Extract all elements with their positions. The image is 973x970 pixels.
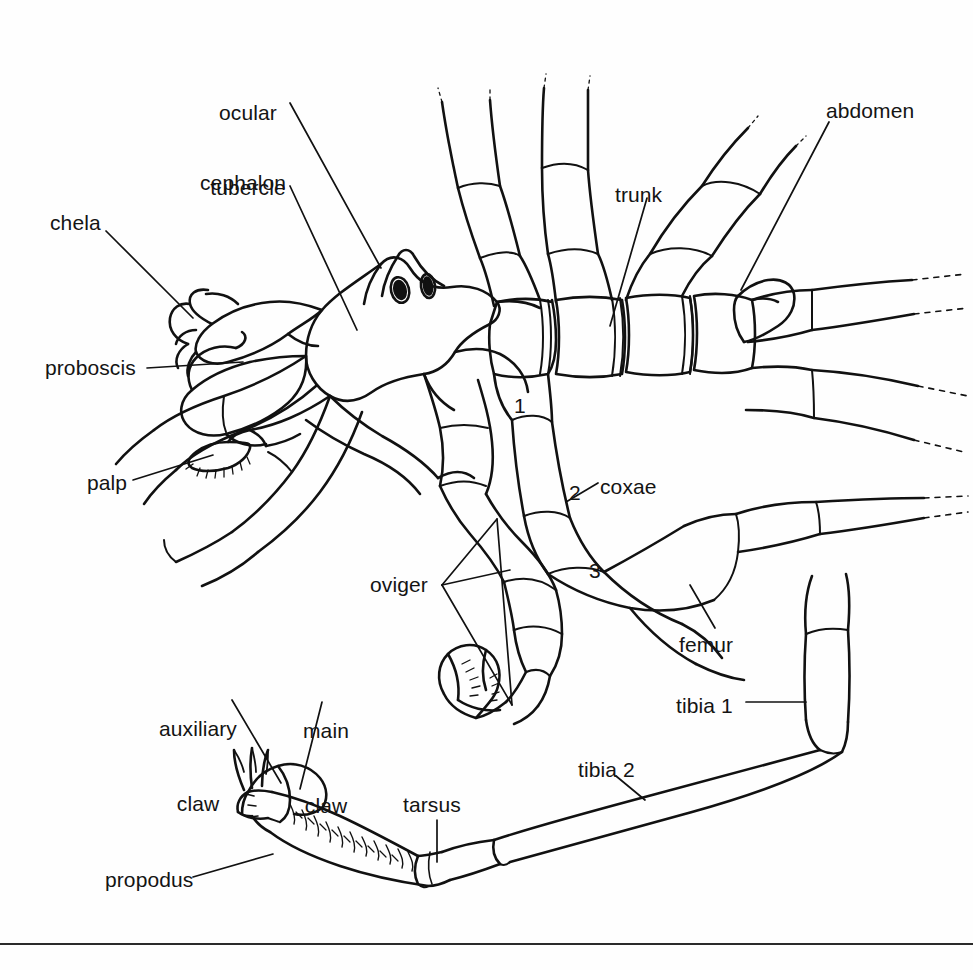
label-palp: palp <box>87 470 127 495</box>
anatomy-figure: ocular tubercle cephalon chela proboscis… <box>0 0 973 970</box>
label-chela: chela <box>50 210 101 235</box>
label-auxiliary-claw: auxiliary claw <box>150 666 246 866</box>
trunk-segments <box>489 294 755 377</box>
label-tarsus: tarsus <box>403 792 461 817</box>
leg-left-3 <box>164 396 362 586</box>
tarsus-shape <box>415 840 500 887</box>
abdomen-shape <box>734 280 794 342</box>
label-femur: femur <box>679 632 733 657</box>
label-trunk: trunk <box>615 182 662 207</box>
label-tibia-2: tibia 2 <box>578 757 635 782</box>
label-auxiliary-claw-line2: claw <box>150 791 246 816</box>
leg-left-1 <box>306 396 474 494</box>
leg-trunk-a <box>438 86 540 306</box>
leader-palp <box>133 455 213 480</box>
label-abdomen: abdomen <box>826 98 914 123</box>
cephalon-body <box>306 257 540 410</box>
palp-shape <box>186 396 330 478</box>
leg-trunk-c <box>626 116 806 300</box>
label-ocular-tubercle: ocular tubercle <box>205 50 291 250</box>
leg-trunk-b <box>542 74 612 302</box>
label-main-claw-line1: main <box>295 718 357 743</box>
label-ocular-tubercle-line1: ocular <box>205 100 291 125</box>
leg-right-d <box>748 274 968 342</box>
label-tibia-1: tibia 1 <box>676 693 733 718</box>
sea-spider-drawing <box>0 0 973 970</box>
bottom-rule <box>0 943 973 945</box>
label-coxa-2: 2 <box>569 480 581 505</box>
oviger-shape <box>439 627 562 724</box>
label-main-claw-line2: claw <box>295 793 357 818</box>
label-coxae: coxae <box>600 474 657 499</box>
leg-right-lower <box>604 572 744 680</box>
leader-ocular-tubercle <box>290 103 381 268</box>
leg-right-e <box>746 367 968 452</box>
label-propodus: propodus <box>105 867 193 892</box>
label-coxa-1: 1 <box>514 393 526 418</box>
label-oviger: oviger <box>370 572 428 597</box>
leg-right-coxae-femur <box>494 374 968 610</box>
leg-left-4 <box>424 374 562 634</box>
label-proboscis: proboscis <box>45 355 136 380</box>
tibia-2-shape <box>493 750 842 865</box>
leader-abdomen <box>741 122 829 290</box>
label-auxiliary-claw-line1: auxiliary <box>150 716 246 741</box>
label-cephalon: cephalon <box>200 170 286 195</box>
tibia-1-shape <box>805 574 850 753</box>
label-coxa-3: 3 <box>589 558 601 583</box>
label-main-claw: main claw <box>295 668 357 868</box>
